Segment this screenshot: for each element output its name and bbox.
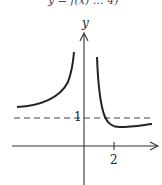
right-branch-curve — [97, 57, 152, 127]
function-graph — [0, 0, 162, 185]
left-branch-curve — [17, 52, 74, 107]
y-axis-label: y — [82, 17, 89, 29]
x-tick-label-2: 2 — [110, 154, 118, 166]
y-tick-label-1: 1 — [74, 111, 82, 123]
